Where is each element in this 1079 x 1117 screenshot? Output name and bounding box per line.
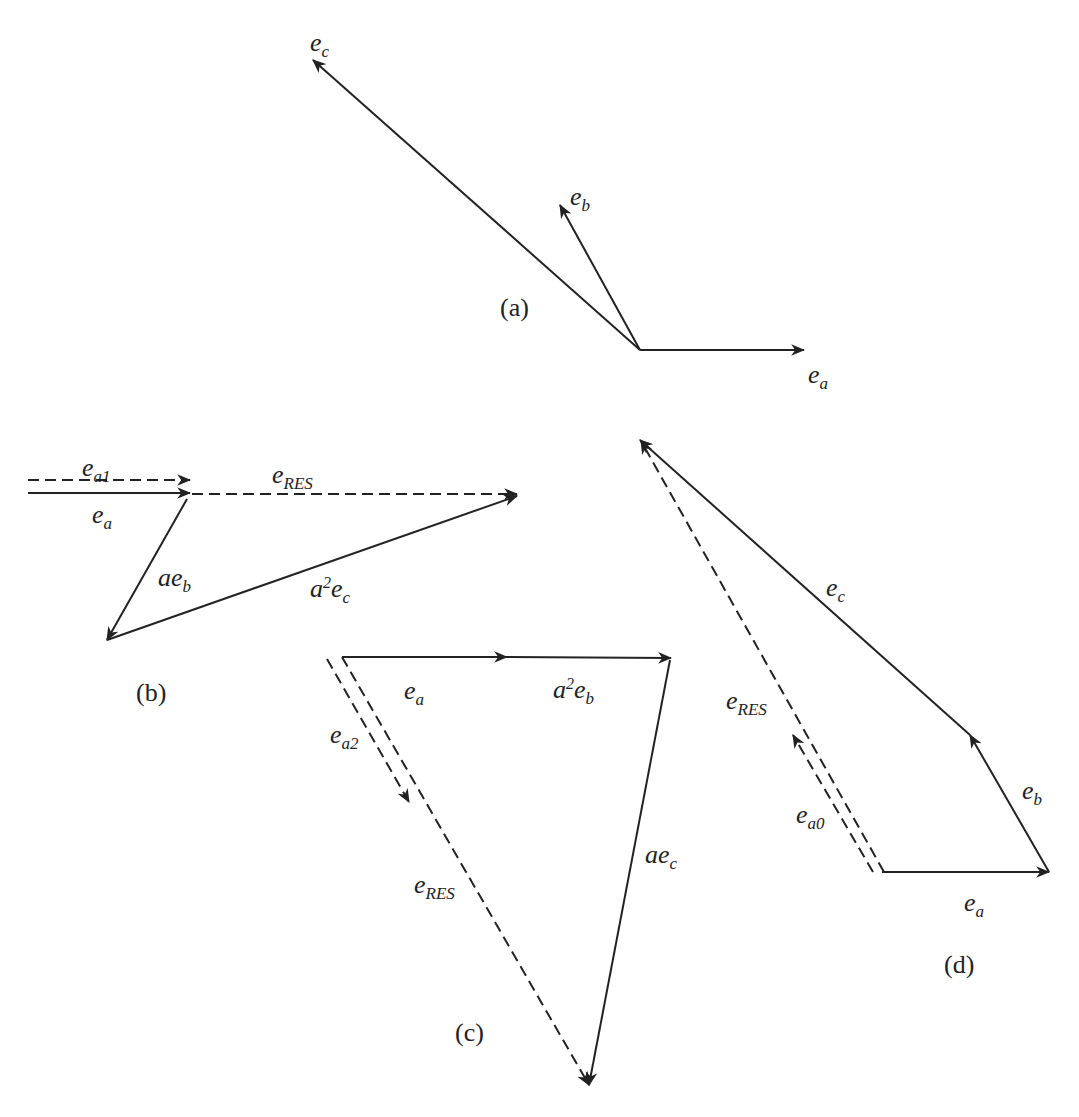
vector-label-d-e-a0: ea0 (796, 802, 825, 832)
vector-label-a-e-c: ec (310, 30, 329, 60)
vector-a-e-c (313, 60, 640, 350)
vector-label-b-e-a: ea (92, 502, 112, 532)
vector-label-b-ae-b: aeb (158, 565, 191, 595)
phasor-diagram: eaebec(a)ea1eaeRESaeba2ec(b)eaa2ebaeceRE… (0, 0, 1079, 1117)
vector-c-ae-c (589, 660, 670, 1085)
vector-label-c-ae-c: aec (645, 842, 677, 872)
vector-label-c-e-a: ea (404, 678, 424, 708)
panel-caption-c: (c) (455, 1020, 484, 1046)
vector-d-e-res (641, 441, 884, 872)
panel-c (327, 657, 671, 1085)
vector-label-a-e-a: ea (808, 362, 828, 392)
vector-a-e-b (560, 205, 640, 350)
vector-label-c-e-a2: ea2 (330, 722, 359, 752)
vector-label-b-e-res: eRES (272, 462, 313, 492)
vector-label-c-e-res: eRES (414, 872, 455, 902)
vector-label-b-a2e-c: a2ec (310, 575, 350, 606)
vector-label-d-e-res: eRES (726, 688, 767, 718)
vector-canvas (0, 0, 1079, 1117)
panel-caption-a: (a) (500, 295, 529, 321)
panel-caption-d: (d) (944, 952, 974, 978)
vector-label-c-a2e-b: a2eb (553, 676, 594, 707)
vector-label-d-e-a: ea (964, 890, 984, 920)
panel-caption-b: (b) (136, 680, 166, 706)
vector-d-e-c (640, 440, 970, 735)
vector-label-d-e-c: ec (826, 575, 845, 605)
panel-a (313, 60, 804, 350)
panel-d (640, 440, 1049, 872)
vector-label-b-e-a1: ea1 (82, 455, 111, 485)
vector-label-d-e-b: eb (1022, 778, 1042, 808)
vector-label-a-e-b: eb (570, 184, 590, 214)
vector-c-a2e-b (507, 657, 671, 658)
